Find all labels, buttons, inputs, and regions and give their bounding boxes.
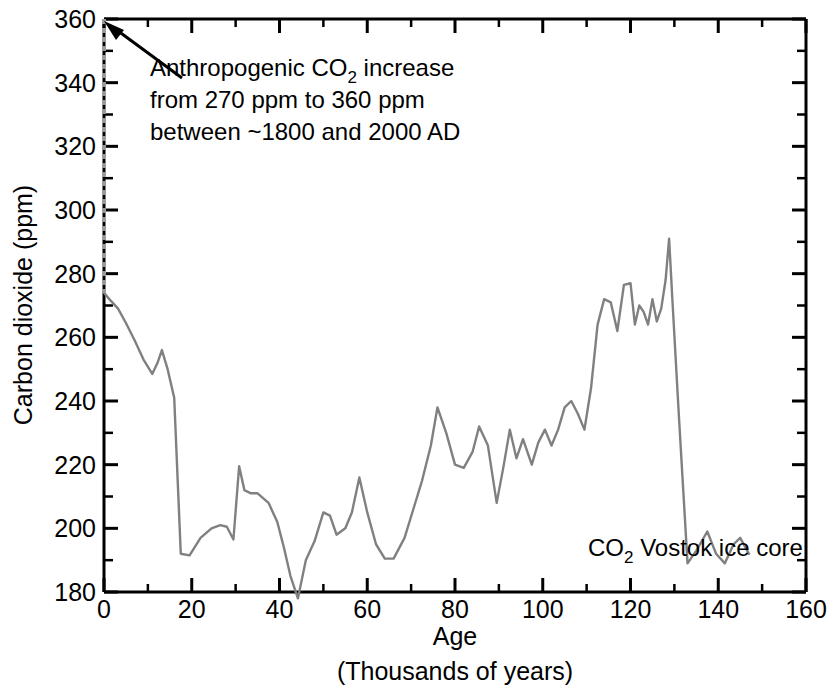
- chart-canvas: 020406080100120140160 180200220240260280…: [0, 0, 838, 690]
- tick-label: 320: [54, 132, 96, 160]
- tick-label: 160: [785, 595, 827, 623]
- tick-label: 240: [54, 387, 96, 415]
- tick-label: 200: [54, 514, 96, 542]
- co2-vostok-figure: 020406080100120140160 180200220240260280…: [0, 0, 838, 690]
- series-inline-label: CO2 Vostok ice core: [588, 534, 803, 567]
- tick-label: 40: [266, 595, 294, 623]
- x-axis-subtitle: (Thousands of years): [337, 657, 573, 685]
- y-axis-tick-labels: 180200220240260280300320340360: [54, 5, 96, 606]
- series-label-sub: 2: [624, 548, 633, 567]
- tick-label: 80: [441, 595, 469, 623]
- annotation-line-1: Anthropogenic CO2 increase: [150, 54, 454, 87]
- tick-label: 220: [54, 451, 96, 479]
- tick-label: 120: [610, 595, 652, 623]
- tick-label: 0: [97, 595, 111, 623]
- annotation-line-1-sub: 2: [347, 68, 356, 87]
- tick-label: 20: [178, 595, 206, 623]
- tick-label: 360: [54, 5, 96, 33]
- annotation-line-3: between ~1800 and 2000 AD: [150, 118, 460, 145]
- annotation-line-2: from 270 ppm to 360 ppm: [150, 86, 425, 113]
- x-axis-title: Age: [433, 622, 477, 650]
- anthropogenic-annotation: Anthropogenic CO2 increase from 270 ppm …: [150, 54, 460, 145]
- annotation-line-1-pre: Anthropogenic CO: [150, 54, 347, 81]
- tick-label: 340: [54, 69, 96, 97]
- tick-label: 140: [697, 595, 739, 623]
- tick-label: 180: [54, 578, 96, 606]
- series-label-pre: CO: [588, 534, 624, 561]
- tick-label: 280: [54, 260, 96, 288]
- tick-label: 260: [54, 323, 96, 351]
- annotation-line-1-post: increase: [357, 54, 454, 81]
- y-axis-title: Carbon dioxide (ppm): [9, 185, 37, 425]
- arrow-head: [104, 21, 124, 40]
- tick-label: 60: [353, 595, 381, 623]
- tick-label: 300: [54, 196, 96, 224]
- tick-label: 100: [522, 595, 564, 623]
- x-axis-tick-labels: 020406080100120140160: [97, 595, 827, 623]
- series-label-post: Vostok ice core: [633, 534, 802, 561]
